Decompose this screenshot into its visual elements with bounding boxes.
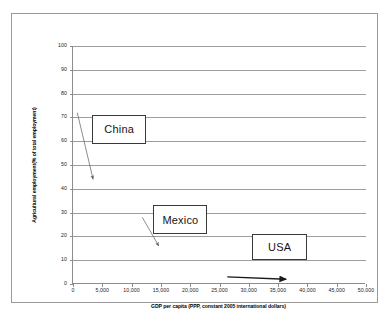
- y-tick-label: 100: [45, 43, 67, 48]
- plot-area: 010203040506070809010005,00010,00015,000…: [72, 46, 365, 284]
- callout-china: China: [92, 115, 146, 144]
- y-tick-mark: [70, 46, 73, 47]
- y-tick-label: 70: [45, 115, 67, 120]
- y-tick-label: 20: [45, 234, 67, 239]
- y-tick-mark: [70, 94, 73, 95]
- gridline-horizontal: [73, 236, 366, 237]
- y-tick-mark: [70, 236, 73, 237]
- y-tick-label: 0: [45, 281, 67, 286]
- gridline-horizontal: [73, 189, 366, 190]
- y-tick-label: 40: [45, 186, 67, 191]
- y-tick-mark: [70, 189, 73, 190]
- y-tick-mark: [70, 260, 73, 261]
- gridline-horizontal: [73, 165, 366, 166]
- y-tick-mark: [70, 213, 73, 214]
- y-tick-label: 60: [45, 139, 67, 144]
- x-tick-label: 50,000: [346, 288, 386, 293]
- gridline-horizontal: [73, 260, 366, 261]
- gridline-horizontal: [73, 213, 366, 214]
- y-tick-mark: [70, 141, 73, 142]
- y-tick-mark: [70, 117, 73, 118]
- y-tick-label: 50: [45, 162, 67, 167]
- y-axis-title: Agricultural employment(% of total emplo…: [29, 46, 40, 284]
- y-tick-label: 30: [45, 210, 67, 215]
- y-tick-label: 80: [45, 91, 67, 96]
- callout-usa: USA: [252, 234, 306, 260]
- gridline-horizontal: [73, 70, 366, 71]
- y-tick-label: 90: [45, 67, 67, 72]
- gridline-horizontal: [73, 94, 366, 95]
- y-tick-mark: [70, 165, 73, 166]
- callout-mexico: Mexico: [153, 205, 207, 234]
- y-tick-mark: [70, 70, 73, 71]
- gridline-horizontal: [73, 46, 366, 47]
- chart-figure-frame: Agricultural employment(% of total emplo…: [11, 13, 378, 303]
- y-tick-label: 10: [45, 258, 67, 263]
- x-axis-title: GDP per capita (PPP, constant 2005 inter…: [72, 303, 365, 309]
